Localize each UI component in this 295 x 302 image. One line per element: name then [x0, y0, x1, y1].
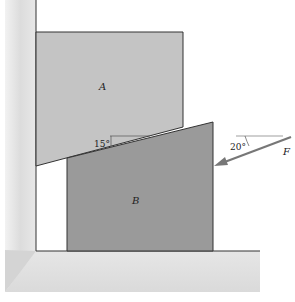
- force-arrow-head: [214, 157, 228, 166]
- force-label: F: [282, 146, 291, 157]
- statics-diagram: A B 15° 20° F: [0, 0, 295, 302]
- angle-20-label: 20°: [230, 142, 246, 152]
- angle-15-label: 15°: [94, 139, 110, 149]
- block-a-label: A: [98, 81, 106, 92]
- block-b-label: B: [131, 195, 139, 206]
- left-wall: [5, 0, 36, 292]
- floor: [5, 251, 260, 292]
